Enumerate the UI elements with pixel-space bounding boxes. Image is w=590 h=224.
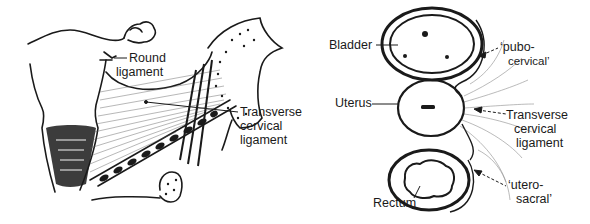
label-transverse-cervical-ligament-left: Transverse cervical ligament bbox=[240, 105, 302, 147]
label-bladder: Bladder bbox=[329, 38, 372, 52]
label-rectum: Rectum bbox=[373, 196, 416, 210]
label-transverse-cervical-ligament-right: Transverse cervical ligament bbox=[506, 108, 568, 150]
label-pubocervical: ‘pubo- cervical’ bbox=[500, 40, 550, 68]
label-line: ‘utero- bbox=[508, 178, 552, 192]
label-line: Transverse bbox=[240, 105, 302, 119]
label-uterus: Uterus bbox=[335, 96, 372, 110]
anatomy-figure: Round ligament Transverse cervical ligam… bbox=[0, 0, 590, 224]
label-line: cervical’ bbox=[508, 54, 550, 68]
label-line: ligament bbox=[516, 136, 568, 150]
label-line: ‘pubo- bbox=[500, 40, 550, 54]
label-line: ligament bbox=[240, 133, 302, 147]
label-line: sacral’ bbox=[516, 192, 552, 206]
label-round-ligament: Round ligament bbox=[129, 51, 166, 79]
label-line: Transverse bbox=[506, 108, 568, 122]
label-line: cervical bbox=[514, 122, 568, 136]
label-uterosacral: ‘utero- sacral’ bbox=[508, 178, 552, 206]
label-line: cervical bbox=[240, 119, 302, 133]
label-line: Round bbox=[129, 51, 166, 65]
label-line: ligament bbox=[116, 65, 166, 79]
